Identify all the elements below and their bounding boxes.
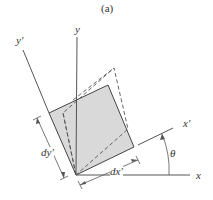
- theta-arc: [162, 134, 169, 175]
- theta-label: θ: [170, 148, 175, 159]
- x-prime-axis: [138, 128, 173, 145]
- strain-transformation-diagram: [0, 0, 213, 200]
- y-prime-axis: [23, 50, 49, 113]
- dx-prime-label: dx′: [110, 166, 123, 177]
- x-axis-label: x: [196, 170, 201, 181]
- y-axis-label: y: [75, 24, 80, 35]
- dy-prime-label: dy′: [41, 147, 54, 158]
- x-prime-axis-label: x′: [183, 118, 190, 129]
- y-prime-axis-label: y′: [16, 35, 23, 46]
